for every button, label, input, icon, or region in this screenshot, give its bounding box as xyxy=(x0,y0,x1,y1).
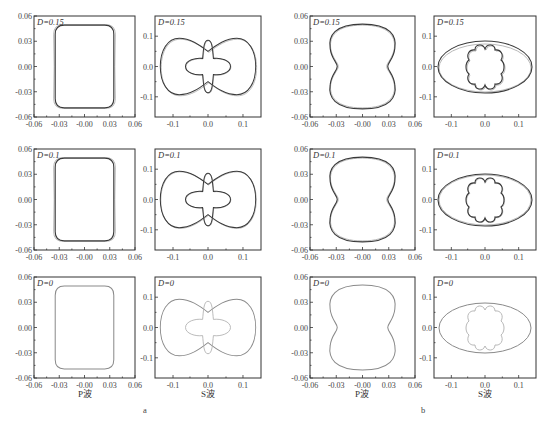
tick-label: 0.06 xyxy=(128,253,142,262)
tick-label: -0.1 xyxy=(167,381,180,390)
tick-label: -0.06 xyxy=(302,381,319,390)
tick-label: -0.00 xyxy=(76,253,93,262)
x-title-p-b: P波 xyxy=(355,388,369,399)
tick-label: 0.00 xyxy=(294,63,308,72)
tick-label: 0.03 xyxy=(18,37,32,46)
tick-label: 0.1 xyxy=(238,253,248,262)
tick-label: 0.1 xyxy=(238,120,248,129)
tick-label: 0.0 xyxy=(143,196,153,205)
tick-label: -0.03 xyxy=(51,120,68,129)
tick-label: -0.06 xyxy=(302,253,319,262)
tick-label: 0.06 xyxy=(294,145,308,154)
tick-label: 0.06 xyxy=(408,253,422,262)
panel-b-s-d015: D=0.15 xyxy=(434,16,536,117)
tick-label: 0.0 xyxy=(143,324,153,333)
panel-b-s-d01: D=0.1 xyxy=(434,149,536,250)
tick-label: 0.1 xyxy=(514,120,524,129)
tick-label: -0.1 xyxy=(140,354,153,363)
tick-label: -0.00 xyxy=(76,120,93,129)
tick-label: 0.1 xyxy=(238,381,248,390)
tick-label: -0.03 xyxy=(328,120,345,129)
tick-label: 0.0 xyxy=(480,120,490,129)
x-title-p-a: P波 xyxy=(78,388,92,399)
tick-label: -0.03 xyxy=(291,88,308,97)
tick-label: 0.0 xyxy=(422,196,432,205)
tick-label: -0.03 xyxy=(291,221,308,230)
panel-a-s-d0: D=0 xyxy=(155,277,261,378)
tick-label: 0.03 xyxy=(18,298,32,307)
tick-label: -0.1 xyxy=(445,381,458,390)
panel-label: D=0.1 xyxy=(157,150,181,160)
panel-label: D=0.1 xyxy=(436,150,460,160)
panel-b-p-d0: D=0 xyxy=(310,277,415,378)
tick-label: 0.1 xyxy=(422,32,432,41)
panel-label: D=0 xyxy=(157,278,175,288)
tick-label: 0.03 xyxy=(382,253,396,262)
panel-b-p-d01: D=0.1 xyxy=(310,149,415,250)
tick-label: 0.06 xyxy=(408,120,422,129)
tick-label: 0.03 xyxy=(294,170,308,179)
panel-label: D=0 xyxy=(436,278,454,288)
panel-label: D=0.1 xyxy=(312,150,336,160)
tick-label: 0.0 xyxy=(422,324,432,333)
tick-label: -0.00 xyxy=(354,253,371,262)
panel-label: D=0.15 xyxy=(312,17,340,27)
tick-label: 0.1 xyxy=(514,253,524,262)
panel-a-p-d0: D=0 xyxy=(34,277,135,378)
tick-label: 0.03 xyxy=(382,120,396,129)
tick-label: -0.06 xyxy=(302,120,319,129)
tick-label: 0.03 xyxy=(294,37,308,46)
tick-label: 0.03 xyxy=(382,381,396,390)
panel-label: D=0.15 xyxy=(157,17,185,27)
panel-b-s-d0: D=0 xyxy=(434,277,536,378)
tick-label: 0.06 xyxy=(18,273,32,282)
tick-label: -0.03 xyxy=(328,253,345,262)
tick-label: -0.03 xyxy=(51,381,68,390)
tick-label: 0.00 xyxy=(18,63,32,72)
tick-label: -0.06 xyxy=(26,120,43,129)
tick-label: -0.1 xyxy=(167,253,180,262)
tick-label: 0.06 xyxy=(408,381,422,390)
tick-label: -0.1 xyxy=(419,354,432,363)
tick-label: -0.1 xyxy=(167,120,180,129)
x-title-s-b: S波 xyxy=(478,388,492,399)
tick-label: 0.00 xyxy=(294,324,308,333)
tick-label: -0.00 xyxy=(354,120,371,129)
tick-label: 0.03 xyxy=(18,170,32,179)
tick-label: 0.0 xyxy=(422,63,432,72)
tick-label: 0.1 xyxy=(422,293,432,302)
tick-label: 0.03 xyxy=(103,253,117,262)
panel-b-p-d015: D=0.15 xyxy=(310,16,415,117)
tick-label: 0.1 xyxy=(143,165,153,174)
axis-ticks xyxy=(34,16,519,378)
tick-label: 0.0 xyxy=(203,120,213,129)
panel-label: D=0.15 xyxy=(36,17,64,27)
tick-label: 0.0 xyxy=(143,63,153,72)
tick-label: -0.1 xyxy=(445,120,458,129)
figure-canvas: D=0.15 D=0.15 D=0.15 D=0.15 xyxy=(0,0,549,421)
tick-label: -0.1 xyxy=(140,93,153,102)
tick-label: -0.06 xyxy=(26,253,43,262)
panel-a-s-d01: D=0.1 xyxy=(155,149,261,250)
tick-label: 0.06 xyxy=(294,12,308,21)
tick-label: -0.1 xyxy=(419,93,432,102)
tick-label: -0.1 xyxy=(445,253,458,262)
tick-label: 0.0 xyxy=(203,253,213,262)
panel-label: D=0 xyxy=(312,278,330,288)
panel-label: D=0 xyxy=(36,278,54,288)
panel-label: D=0.15 xyxy=(436,17,464,27)
panel-a-p-d01: D=0.1 xyxy=(34,149,135,250)
tick-label: 0.03 xyxy=(294,298,308,307)
tick-label: 0.0 xyxy=(480,253,490,262)
tick-label: -0.03 xyxy=(15,221,32,230)
sub-figure-label-a: a xyxy=(143,405,147,415)
tick-label: 0.00 xyxy=(18,196,32,205)
tick-label: 0.00 xyxy=(294,196,308,205)
tick-label: 0.1 xyxy=(422,165,432,174)
tick-label: -0.03 xyxy=(51,253,68,262)
tick-label: 0.1 xyxy=(143,32,153,41)
panel-label: D=0.1 xyxy=(36,150,60,160)
tick-label: 0.06 xyxy=(128,120,142,129)
tick-label: -0.1 xyxy=(419,226,432,235)
tick-label: -0.03 xyxy=(291,349,308,358)
